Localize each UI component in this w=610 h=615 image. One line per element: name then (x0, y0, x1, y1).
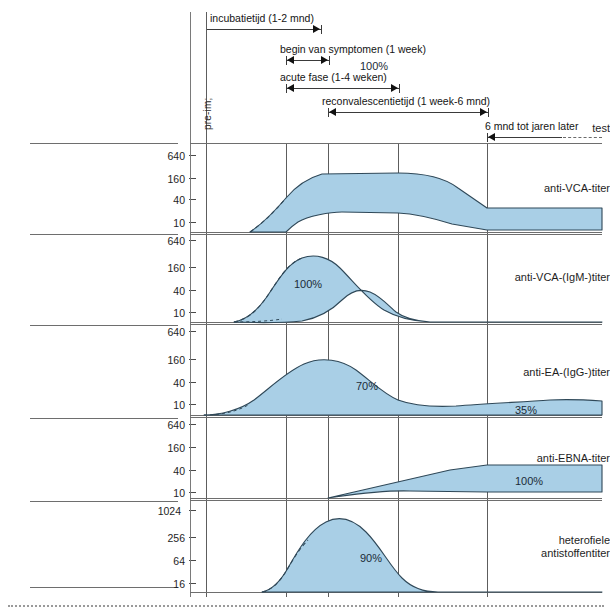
tick-p5-256: 256 (145, 533, 185, 544)
row-separator-3 (30, 325, 178, 326)
tick-p3-10: 10 (145, 400, 185, 411)
tick-p3-40: 40 (145, 378, 185, 389)
row-separator-5 (30, 501, 178, 502)
row-separator-2 (30, 234, 178, 235)
bottom-dotted-rule (8, 605, 604, 607)
tick-p5-64: 64 (145, 556, 185, 567)
row-separator-1 (30, 143, 178, 144)
tick-p3-640: 640 (145, 327, 185, 338)
callout-panel5-90: 90% (360, 552, 382, 564)
tick-p5-1024: 1024 (141, 506, 181, 517)
tick-p5-16: 16 (145, 579, 185, 590)
tick-p2-40: 40 (145, 286, 185, 297)
tick-p3-160: 160 (145, 355, 185, 366)
tick-p2-10: 10 (145, 308, 185, 319)
tick-p1-10: 10 (145, 218, 185, 229)
tick-p1-640: 640 (145, 151, 185, 162)
row-separator-4 (30, 418, 178, 419)
tick-p4-40: 40 (145, 466, 185, 477)
tick-p1-160: 160 (145, 174, 185, 185)
tick-p4-640: 640 (145, 420, 185, 431)
figure-root: test anti-VCA-titer anti-VCA-(IgM-)titer… (0, 0, 610, 615)
tick-p1-40: 40 (145, 195, 185, 206)
tick-p2-160: 160 (145, 263, 185, 274)
tick-p4-10: 10 (145, 488, 185, 499)
plot-area: pre-im; 100% (190, 12, 602, 597)
tick-p4-160: 160 (145, 443, 185, 454)
tick-p2-640: 640 (145, 236, 185, 247)
curve-heterofiele-antistoffentiter (190, 12, 602, 597)
